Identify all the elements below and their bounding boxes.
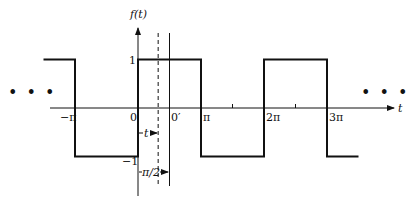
square-wave-diagram: f(t) t • • • • • • 1 −1 −π0π2π3π 0′ t π/… [0, 0, 408, 202]
shift-t-label: t [144, 127, 149, 140]
x-tick-label: 3π [329, 111, 343, 124]
x-tick-label: π [203, 111, 210, 124]
y-axis-label: f(t) [129, 8, 147, 21]
continuation-left: • • • [8, 83, 56, 102]
shift-half-pi-label: π/2 [141, 166, 160, 179]
x-tick-label: −π [60, 111, 76, 124]
x-axis-label: t [398, 102, 403, 115]
continuation-right: • • • [361, 83, 408, 102]
x-tick-label: 2π [266, 111, 280, 124]
x-tick-label: 0 [130, 111, 137, 124]
origin-shift-label: 0′ [171, 111, 181, 124]
level-low-label: −1 [122, 155, 138, 168]
level-high-label: 1 [129, 54, 136, 67]
